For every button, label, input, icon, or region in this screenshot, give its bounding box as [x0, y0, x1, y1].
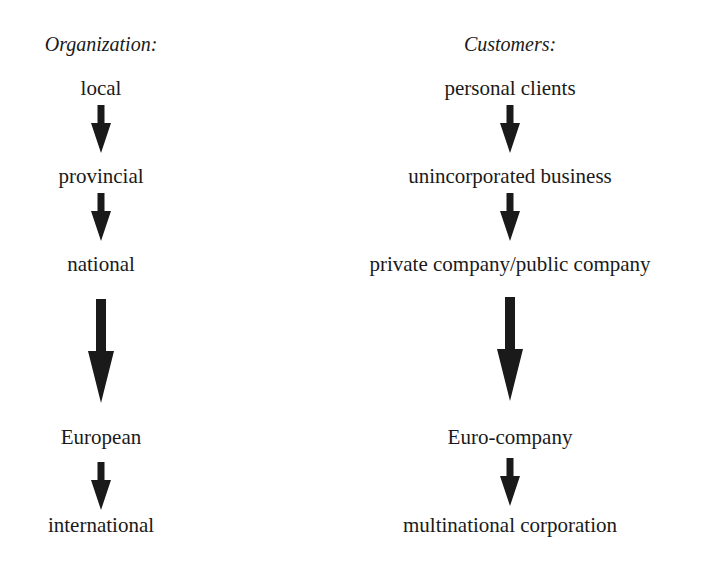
arrow-down-icon	[499, 458, 521, 506]
org-level-national: national	[0, 252, 281, 276]
arrow-down-icon	[499, 105, 521, 153]
arrow-down-icon	[90, 462, 112, 510]
customer-level-private-public-company: private company/public company	[330, 252, 690, 276]
customers-column: Customers: personal clients unincorporat…	[330, 0, 690, 563]
arrow-down-icon	[90, 105, 112, 153]
organization-header: Organization:	[0, 32, 281, 56]
org-level-provincial: provincial	[0, 164, 281, 188]
arrow-down-icon	[90, 193, 112, 241]
organization-column: Organization: local provincial national …	[0, 0, 281, 563]
customer-level-personal-clients: personal clients	[330, 76, 690, 100]
org-level-european: European	[0, 425, 281, 449]
org-level-international: international	[0, 513, 281, 537]
arrow-down-icon	[499, 193, 521, 241]
customer-level-euro-company: Euro-company	[330, 425, 690, 449]
customer-level-unincorporated-business: unincorporated business	[330, 164, 690, 188]
org-level-local: local	[0, 76, 281, 100]
customers-header: Customers:	[330, 32, 690, 56]
large-arrow-down-icon	[87, 299, 115, 403]
customer-level-multinational-corporation: multinational corporation	[330, 513, 690, 537]
large-arrow-down-icon	[496, 297, 524, 401]
